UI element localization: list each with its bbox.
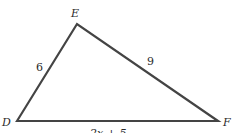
side-label-df: 2x + 5 [89, 127, 126, 133]
side-label-ef: 9 [147, 55, 154, 68]
triangle-def [17, 24, 218, 121]
triangle-diagram: E D F 6 9 2x + 5 [0, 0, 235, 133]
vertex-label-d: D [1, 116, 11, 129]
vertex-label-e: E [70, 7, 79, 20]
side-label-de: 6 [36, 61, 43, 74]
vertex-label-f: F [222, 116, 231, 129]
